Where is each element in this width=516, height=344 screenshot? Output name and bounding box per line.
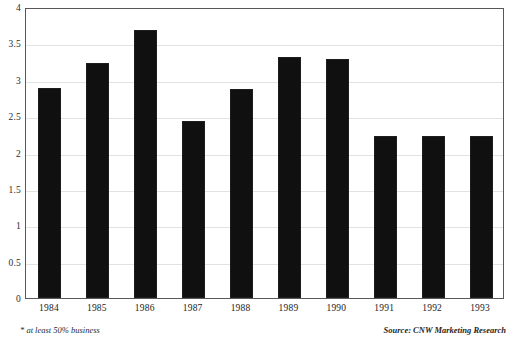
bar [278,57,301,298]
bar [470,136,493,298]
bar [326,59,349,298]
y-axis-tick-label: 2.5 [9,112,21,122]
x-axis-tick-label: 1989 [279,303,299,313]
x-axis-tick-label: 1991 [374,303,394,313]
bar [134,30,157,298]
y-axis-tick-label: 1.5 [9,185,21,195]
y-axis-tick-label: 4 [16,3,21,13]
plot-area [25,8,504,299]
bar [38,88,61,298]
y-axis-tick-label: 3 [16,76,21,86]
bar [86,63,109,298]
y-axis-tick-label: 1 [16,221,21,231]
y-axis-tick-label: 0 [16,294,21,304]
footnote: * at least 50% business [20,325,100,335]
bars [26,9,503,298]
x-axis-tick-label: 1993 [470,303,490,313]
source-note: Source: CNW Marketing Research [384,325,506,335]
bar [374,136,397,298]
y-axis: 00.511.522.533.54 [0,0,25,307]
bar-chart: 00.511.522.533.54 1984198519861987198819… [0,0,516,344]
x-axis-tick-label: 1984 [39,303,59,313]
x-axis-tick-label: 1990 [326,303,346,313]
x-axis: 1984198519861987198819891990199119921993 [25,303,504,321]
y-axis-tick-label: 3.5 [9,39,21,49]
bar [230,89,253,298]
bar [422,136,445,298]
x-axis-tick-label: 1985 [87,303,107,313]
bar [182,121,205,298]
y-axis-tick-label: 0.5 [9,258,21,268]
x-axis-tick-label: 1992 [422,303,442,313]
x-axis-tick-label: 1986 [135,303,155,313]
x-axis-tick-label: 1988 [231,303,251,313]
x-axis-tick-label: 1987 [183,303,203,313]
y-axis-tick-label: 2 [16,149,21,159]
